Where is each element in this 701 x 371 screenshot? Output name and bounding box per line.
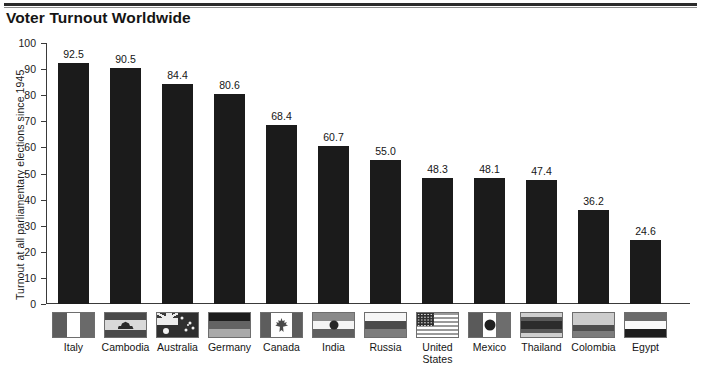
y-axis-tick (41, 278, 46, 279)
flag-mexico-icon (468, 312, 511, 338)
flag-canada-icon (260, 312, 303, 338)
x-axis-label-line: States (406, 353, 470, 365)
star (188, 321, 191, 324)
bar-colombia (578, 210, 609, 304)
y-axis-tick (41, 69, 46, 70)
flag-india-icon (312, 312, 355, 338)
flag-band (625, 321, 666, 329)
flag-band (313, 329, 354, 337)
bar-value-label: 60.7 (310, 132, 358, 143)
bar-mexico (474, 178, 505, 304)
flag-band (209, 321, 250, 329)
flag-thailand-icon (520, 312, 563, 338)
page-title: Voter Turnout Worldwide (6, 9, 191, 27)
y-axis-tick-label: 10 (8, 273, 36, 283)
bar-value-label: 24.6 (622, 226, 670, 237)
bar-value-label: 48.3 (414, 164, 462, 175)
bar-value-label: 47.4 (518, 166, 566, 177)
y-axis-tick (41, 147, 46, 148)
flag-band (521, 321, 562, 329)
y-axis-tick (41, 226, 46, 227)
header-rule-thin (4, 7, 697, 8)
bar-cambodia (110, 68, 141, 304)
x-axis-label-line: Egypt (614, 341, 678, 353)
bar-value-label: 84.4 (154, 70, 202, 81)
flag-band (67, 313, 81, 337)
star (192, 326, 195, 329)
flag-band (105, 313, 146, 320)
flag-band (521, 333, 562, 337)
flag-band (573, 313, 614, 325)
flag-germany-icon (208, 312, 251, 338)
flag-band (261, 313, 271, 337)
y-axis-tick (41, 43, 46, 44)
y-axis-tick-label: 50 (8, 169, 36, 179)
flag-band (625, 313, 666, 321)
y-axis-tick-label: 100 (8, 38, 36, 48)
bar-value-label: 55.0 (362, 146, 410, 157)
ashoka-chakra (329, 321, 338, 330)
bar-thailand (526, 180, 557, 304)
y-axis-title: Turnout at all parliamentary elections s… (14, 70, 26, 300)
bar-united-states (422, 178, 453, 304)
star (184, 329, 187, 332)
y-axis-tick (41, 252, 46, 253)
y-axis-tick-label: 40 (8, 195, 36, 205)
union-jack-cross-v (166, 313, 172, 325)
bar-value-label: 90.5 (102, 54, 150, 65)
flag-band (105, 330, 146, 337)
y-axis-tick (41, 200, 46, 201)
flag-band (209, 313, 250, 321)
bar-egypt (630, 240, 661, 304)
flag-band (625, 329, 666, 337)
star (181, 317, 184, 320)
bar-value-label: 48.1 (466, 164, 514, 175)
star (187, 324, 189, 326)
flag-band (365, 329, 406, 337)
y-axis-tick-label: 60 (8, 142, 36, 152)
flag-band (573, 331, 614, 337)
y-axis-tick-label: 20 (8, 247, 36, 257)
bar-value-label: 80.6 (206, 80, 254, 91)
x-axis-label: Egypt (614, 341, 678, 353)
y-axis-tick (41, 121, 46, 122)
bar-value-label: 92.5 (50, 49, 98, 60)
flag-band (496, 313, 510, 337)
bar-canada (266, 125, 297, 304)
flag-band (365, 321, 406, 329)
bar-australia (162, 84, 193, 304)
flag-australia-icon (156, 312, 199, 338)
bar-india (318, 146, 349, 304)
bar-value-label: 68.4 (258, 111, 306, 122)
bar-russia (370, 160, 401, 304)
y-axis-tick-label: 80 (8, 90, 36, 100)
flag-band (469, 313, 483, 337)
flag-band (53, 313, 67, 337)
bar-italy (58, 63, 89, 304)
y-axis-tick (41, 95, 46, 96)
y-axis-tick (41, 174, 46, 175)
y-axis-tick (41, 304, 46, 305)
coat-of-arms (484, 320, 495, 331)
flag-band (365, 313, 406, 321)
header-rule (4, 3, 697, 6)
flag-egypt-icon (624, 312, 667, 338)
flag-cambodia-icon (104, 312, 147, 338)
flag-italy-icon (52, 312, 95, 338)
y-axis-tick-label: 90 (8, 64, 36, 74)
flag-russia-icon (364, 312, 407, 338)
stars (417, 313, 434, 326)
y-axis-tick-label: 70 (8, 116, 36, 126)
flag-band (292, 313, 302, 337)
bar-germany (214, 94, 245, 304)
star (163, 328, 169, 334)
y-axis-line (46, 43, 47, 304)
y-axis-tick-label: 0 (8, 299, 36, 309)
flag-united-states-icon (416, 312, 459, 338)
flag-band (209, 329, 250, 337)
flag-band (80, 313, 94, 337)
bar-value-label: 36.2 (570, 196, 618, 207)
y-axis-tick-label: 30 (8, 221, 36, 231)
flag-colombia-icon (572, 312, 615, 338)
